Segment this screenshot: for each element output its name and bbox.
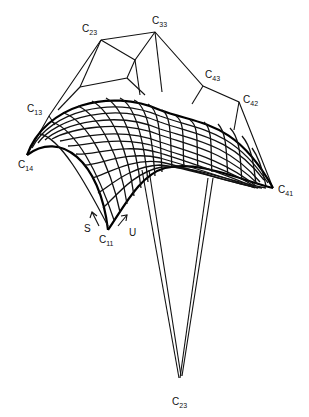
label-c43: C43: [205, 69, 220, 82]
label-c23-bottom: C23: [172, 396, 187, 409]
surface-diagram: C23 C33 C43 C42 C13 C14 C41 C11 C23 S U: [0, 0, 309, 417]
label-c23-top: C23: [82, 23, 97, 36]
axis-label-u: U: [129, 227, 136, 238]
label-c14: C14: [18, 159, 33, 172]
label-c42: C42: [243, 94, 258, 107]
control-polygon: [27, 32, 273, 378]
label-c11: C11: [99, 234, 114, 247]
axis-label-s: S: [84, 223, 91, 234]
label-c13: C13: [27, 103, 42, 116]
label-c33: C33: [152, 15, 167, 28]
label-c41: C41: [278, 184, 293, 197]
direction-arrows: [90, 212, 127, 226]
